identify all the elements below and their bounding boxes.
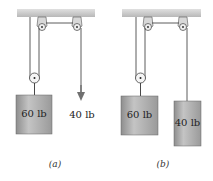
fixed-pulley-right: [72, 17, 82, 31]
ceiling: [122, 9, 201, 17]
weight-label: 60 lb: [21, 108, 47, 119]
fixed-pulley-left: [143, 17, 153, 31]
ceiling: [17, 9, 95, 17]
force-arrow: [77, 85, 85, 101]
caption-a: (a): [49, 159, 62, 169]
force-label: 40 lb: [69, 109, 95, 120]
fixed-pulley-left: [37, 17, 47, 31]
caption-b: (b): [157, 159, 170, 169]
fixed-pulley-right: [178, 17, 188, 31]
moving-pulley: [30, 73, 40, 95]
weight-label: 60 lb: [127, 109, 153, 120]
moving-pulley: [136, 73, 146, 96]
panel-b: 60 lb 40 lb (b): [121, 9, 201, 169]
counterweight-label: 40 lb: [175, 117, 201, 128]
pulley-diagram: 60 lb 40 lb (a) 60 lb: [0, 0, 213, 181]
panel-a: 60 lb 40 lb (a): [16, 9, 95, 169]
